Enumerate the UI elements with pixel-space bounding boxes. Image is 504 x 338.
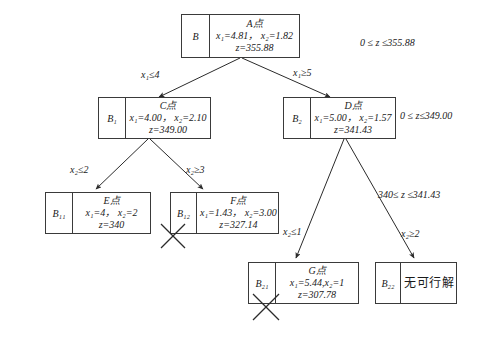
node-b12-point: F点 bbox=[230, 195, 246, 207]
node-root-tag: B bbox=[182, 15, 210, 57]
node-b1[interactable]: B₁ C点 x₁=4.00， x₂=2.10 z=349.00 bbox=[98, 97, 211, 139]
node-b1-tag: B₁ bbox=[99, 98, 126, 138]
node-b1-body: C点 x₁=4.00， x₂=2.10 z=349.00 bbox=[126, 98, 210, 138]
bound-label-root: 0 ≤ z ≤355.88 bbox=[360, 37, 415, 48]
node-b21-point: G点 bbox=[308, 265, 325, 277]
node-b1-objective: z=349.00 bbox=[149, 124, 187, 136]
edge-b2-to-b21 bbox=[296, 139, 344, 258]
edge-label-b2-left: x₂≤1 bbox=[283, 226, 301, 237]
node-b11-objective: z=340 bbox=[99, 219, 125, 231]
node-b1-values: x₁=4.00， x₂=2.10 bbox=[130, 112, 207, 124]
node-b12-body: F点 x₁=1.43， x₂=3.00 z=327.14 bbox=[197, 193, 280, 233]
node-b2-values: x₁=5.00， x₂=1.57 bbox=[315, 112, 392, 124]
node-root-objective: z=355.88 bbox=[235, 42, 273, 54]
node-b21-body: G点 x₁=5.44,x₂=1 z=307.78 bbox=[276, 263, 358, 303]
node-b11-tag: B₁₁ bbox=[46, 193, 73, 233]
node-b22-tag: B₂₂ bbox=[376, 263, 401, 303]
node-b11[interactable]: B₁₁ E点 x₁=4， x₂=2 z=340 bbox=[45, 192, 151, 234]
edge-b1-to-b11 bbox=[96, 139, 148, 189]
node-b21-values: x₁=5.44,x₂=1 bbox=[290, 277, 344, 289]
node-b2[interactable]: B₂ D点 x₁=5.00， x₂=1.57 z=341.43 bbox=[283, 97, 396, 139]
node-b11-values: x₁=4， x₂=2 bbox=[86, 207, 138, 219]
node-root-point: A点 bbox=[246, 18, 262, 30]
branch-and-bound-diagram: B A点 x₁=4.81， x₂=1.82 z=355.88 B₁ C点 x₁=… bbox=[0, 0, 504, 338]
node-b2-point: D点 bbox=[344, 100, 361, 112]
node-b21-objective: z=307.78 bbox=[298, 289, 336, 301]
node-b11-point: E点 bbox=[103, 195, 119, 207]
node-b11-body: E点 x₁=4， x₂=2 z=340 bbox=[73, 193, 150, 233]
node-b22[interactable]: B₂₂ 无可行解 bbox=[375, 262, 457, 304]
edge-label-b2-right: x₂≥2 bbox=[401, 228, 419, 239]
edge-label-b1-left: x₂≤2 bbox=[70, 164, 88, 175]
node-root[interactable]: B A点 x₁=4.81， x₂=1.82 z=355.88 bbox=[181, 14, 300, 58]
node-b22-body: 无可行解 bbox=[401, 263, 457, 303]
node-b2-body: D点 x₁=5.00， x₂=1.57 z=341.43 bbox=[311, 98, 395, 138]
node-b2-tag: B₂ bbox=[284, 98, 311, 138]
edge-label-b1-right: x₂≥3 bbox=[186, 164, 204, 175]
edge-label-root-left: x₁≤4 bbox=[141, 69, 159, 80]
edge-root-to-b1 bbox=[159, 58, 240, 97]
edge-root-to-b2 bbox=[242, 58, 330, 97]
prune-cross-b12 bbox=[158, 221, 188, 251]
node-b12-values: x₁=1.43， x₂=3.00 bbox=[200, 207, 277, 219]
node-root-body: A点 x₁=4.81， x₂=1.82 z=355.88 bbox=[210, 15, 299, 57]
node-b1-point: C点 bbox=[160, 100, 177, 112]
node-root-values: x₁=4.81， x₂=1.82 bbox=[216, 30, 293, 42]
bound-label-b21: 340≤ z ≤341.43 bbox=[378, 189, 440, 200]
prune-cross-b21 bbox=[250, 291, 282, 323]
node-b22-status: 无可行解 bbox=[404, 276, 454, 290]
bound-label-b2: 0 ≤ z≤349.00 bbox=[400, 110, 452, 121]
node-b2-objective: z=341.43 bbox=[334, 124, 372, 136]
node-b12-objective: z=327.14 bbox=[219, 219, 257, 231]
edge-label-root-right: x₁≥5 bbox=[293, 67, 311, 78]
